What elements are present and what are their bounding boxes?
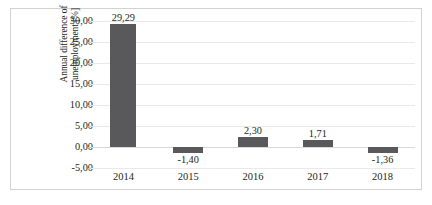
bar: [368, 147, 398, 153]
x-axis-tick-label: 2014: [113, 170, 134, 184]
y-axis-tick-label: 30,00: [51, 16, 93, 26]
bar-value-label: -1,40: [177, 154, 198, 165]
chart-container: Annual difference of unemployment [%] -5…: [10, 8, 422, 190]
x-axis-tick-label: 2016: [243, 170, 264, 184]
y-axis-tick-label: 25,00: [51, 37, 93, 47]
bar-value-label: 2,30: [244, 125, 262, 136]
y-axis-tick-label: 5,00: [51, 121, 93, 131]
bar: [173, 147, 203, 153]
bar-group: 2,30: [221, 21, 286, 168]
bar: [238, 137, 268, 147]
bar: [110, 24, 136, 147]
x-axis-tick-label: 2017: [307, 170, 328, 184]
bar-value-label: 29,29: [112, 12, 135, 23]
bar-value-label: 1,71: [309, 128, 327, 139]
x-axis-tick-labels: 20142015201620172018: [91, 170, 415, 188]
bar-group: 29,29: [91, 21, 156, 168]
plot-area: 29,29-1,402,301,71-1,36: [91, 21, 415, 168]
x-axis-tick-label: 2018: [372, 170, 393, 184]
y-axis-tick-label: 10,00: [51, 100, 93, 110]
y-axis-tick-mark: [88, 168, 91, 169]
gridline: [91, 168, 415, 169]
x-axis-tick-label: 2015: [178, 170, 199, 184]
bar-group: -1,40: [156, 21, 221, 168]
y-axis-tick-label: 15,00: [51, 79, 93, 89]
y-axis-tick-label: 0,00: [51, 142, 93, 152]
bar-group: -1,36: [350, 21, 415, 168]
y-axis-tick-label: -5,00: [51, 163, 93, 173]
y-axis-tick-labels: -5,000,005,0010,0015,0020,0025,0030,00: [51, 9, 93, 191]
bar-group: 1,71: [285, 21, 350, 168]
bar-value-label: -1,36: [372, 154, 393, 165]
y-axis-tick-label: 20,00: [51, 58, 93, 68]
bar: [303, 140, 333, 147]
bar-series: 29,29-1,402,301,71-1,36: [91, 21, 415, 168]
